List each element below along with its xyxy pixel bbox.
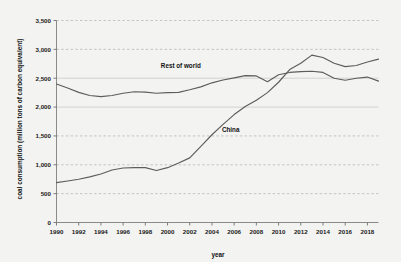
x-tick-label-2008: 2008 [249,228,263,235]
y-tick-label-1000: 1,000 [36,161,52,168]
x-tick-label-2010: 2010 [272,228,286,235]
y-tick-label-0: 0 [48,219,52,226]
x-tick-label-1994: 1994 [94,228,108,235]
x-axis-title: year [211,251,225,259]
y-tick-label-2000: 2,000 [36,103,52,110]
y-tick-label-2500: 2,500 [36,75,52,82]
chart-figure: 05001,0001,5002,0002,5003,0003,500 19901… [0,0,401,262]
y-tick-label-1500: 1,500 [36,132,52,139]
x-tick-label-2018: 2018 [361,228,375,235]
x-tick-label-2004: 2004 [205,228,219,235]
x-tick-label-2016: 2016 [338,228,352,235]
y-axis-title: coal consumption (million tons of carbon… [16,39,24,200]
x-tick-label-2000: 2000 [161,228,175,235]
series-line-rest-of-world [57,71,379,96]
series-line-china [57,55,379,183]
x-tick-label-1992: 1992 [72,228,86,235]
tick-marks [54,21,368,226]
x-tick-label-2012: 2012 [294,228,308,235]
data-series [57,55,379,183]
y-tick-label-3000: 3,000 [36,46,52,53]
y-tick-label-3500: 3,500 [36,17,52,24]
series-annotations: Rest of worldChina [161,62,240,134]
y-tick-labels: 05001,0001,5002,0002,5003,0003,500 [36,17,52,226]
x-tick-label-1996: 1996 [116,228,130,235]
x-tick-label-2002: 2002 [183,228,197,235]
x-tick-label-2006: 2006 [227,228,241,235]
x-tick-labels: 1990199219941996199820002002200420062008… [50,228,375,235]
x-tick-label-2014: 2014 [316,228,330,235]
axes [57,21,379,223]
x-tick-label-1990: 1990 [50,228,64,235]
series-label-rest-of-world: Rest of world [161,62,201,69]
gridlines [57,21,379,194]
coal-consumption-line-chart: 05001,0001,5002,0002,5003,0003,500 19901… [0,0,401,262]
series-label-china: China [222,126,240,133]
y-tick-label-500: 500 [41,190,52,197]
x-tick-label-1998: 1998 [138,228,152,235]
